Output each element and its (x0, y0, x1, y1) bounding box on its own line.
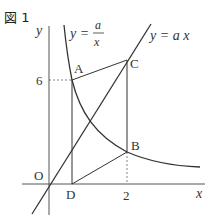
point-B-label: B (131, 138, 140, 153)
hyperbola-eq-numerator: a (95, 18, 101, 32)
line-eq-label: y = a x (148, 28, 190, 43)
hyperbola-eq-denominator: x (93, 35, 100, 49)
origin-label: O (34, 168, 43, 183)
line-y-ax (32, 24, 151, 214)
x-tick-2: 2 (123, 188, 130, 203)
x-axis-label: x (195, 186, 203, 201)
y-tick-6: 6 (36, 73, 43, 88)
figure-1: 図 1 y x O 6 2 A C B D y = a x y = a x (0, 0, 210, 221)
figure-label: 図 1 (4, 7, 29, 26)
point-D-label: D (66, 187, 75, 202)
point-A-label: A (74, 61, 84, 76)
y-axis-label: y (34, 23, 43, 38)
coordinate-diagram: y x O 6 2 A C B D y = a x y = a x (0, 0, 210, 221)
hyperbola-eq-lhs: y = (68, 26, 89, 41)
point-C-label: C (130, 56, 139, 71)
segment-DB (72, 152, 127, 184)
